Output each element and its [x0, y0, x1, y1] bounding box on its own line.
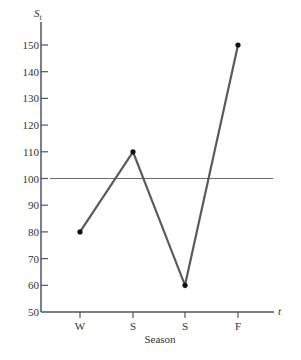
y-tick-label: 80	[28, 226, 40, 238]
y-tick-label: 140	[23, 66, 40, 78]
y-tick-label: 150	[23, 39, 40, 51]
x-axis-title: Season	[144, 333, 176, 345]
y-tick-label: 70	[28, 253, 40, 265]
seasonal-index-chart: 5060708090100110120130140150 WSSF St t S…	[0, 0, 301, 360]
y-tick-label: 100	[23, 173, 40, 185]
y-tick-label: 50	[28, 306, 40, 318]
y-axis-title: St	[34, 7, 43, 22]
y-tick-label: 90	[28, 199, 40, 211]
y-tick-label: 120	[23, 119, 40, 131]
data-point	[130, 149, 135, 154]
x-axis-ticks: WSSF	[75, 312, 241, 332]
x-tick-label: S	[130, 320, 136, 332]
x-tick-label: S	[182, 320, 188, 332]
x-tick-label: W	[75, 320, 86, 332]
x-axis-variable: t	[278, 305, 282, 317]
data-markers	[77, 42, 240, 288]
x-tick-label: F	[235, 320, 241, 332]
y-axis-title-sub: t	[40, 13, 43, 22]
y-tick-label: 110	[23, 146, 40, 158]
y-tick-label: 60	[28, 279, 40, 291]
series-line	[80, 45, 238, 285]
data-point	[235, 42, 240, 47]
data-point	[182, 283, 187, 288]
data-point	[77, 229, 82, 234]
y-tick-label: 130	[23, 92, 40, 104]
y-axis-ticks: 5060708090100110120130140150	[23, 39, 49, 318]
